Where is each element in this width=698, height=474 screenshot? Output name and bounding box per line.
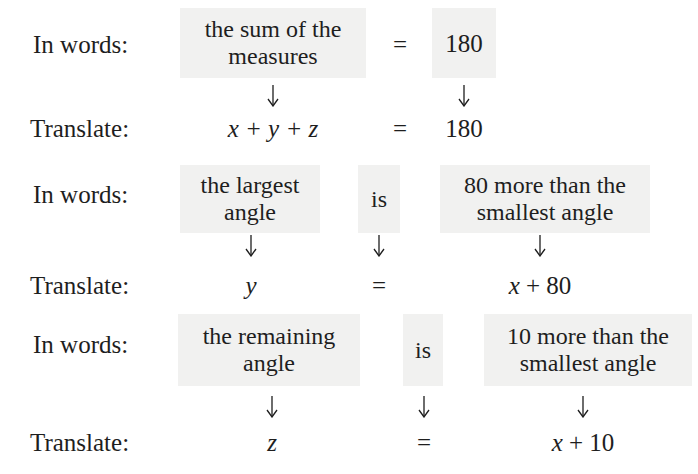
plus-80: + 80 bbox=[520, 272, 572, 299]
phrase-line: the remaining bbox=[203, 323, 336, 350]
phrase-80-more-than-smallest: 80 more than the smallest angle bbox=[440, 165, 650, 233]
in-words-label: In words: bbox=[33, 31, 128, 59]
translate-label: Translate: bbox=[30, 429, 129, 457]
down-arrow-icon bbox=[417, 396, 431, 418]
down-arrow-icon bbox=[372, 235, 386, 257]
variable-x: x bbox=[552, 429, 563, 456]
expression-x-plus-80: x + 80 bbox=[490, 272, 590, 300]
equals-sign: = bbox=[367, 272, 391, 300]
down-arrow-icon bbox=[533, 235, 547, 257]
phrase-largest-angle: the largest angle bbox=[180, 165, 320, 233]
down-arrow-icon bbox=[457, 85, 471, 107]
phrase-sum-of-measures: the sum of the measures bbox=[180, 8, 366, 78]
equals-sign: = bbox=[412, 429, 436, 457]
phrase-180: 180 bbox=[432, 8, 496, 78]
in-words-label: In words: bbox=[33, 181, 128, 209]
expression-x-plus-10: x + 10 bbox=[533, 429, 633, 457]
phrase-line: angle bbox=[203, 350, 336, 377]
expression-z: z bbox=[252, 429, 292, 457]
down-arrow-icon bbox=[266, 85, 280, 107]
variable-x: x bbox=[509, 272, 520, 299]
phrase-line: smallest angle bbox=[464, 199, 626, 226]
phrase-line: 10 more than the bbox=[507, 323, 669, 350]
phrase-line: 80 more than the bbox=[464, 172, 626, 199]
phrase-line: angle bbox=[201, 199, 300, 226]
equals-sign: = bbox=[388, 115, 412, 143]
phrase-line: smallest angle bbox=[507, 350, 669, 377]
phrase-remaining-angle: the remaining angle bbox=[178, 314, 360, 386]
expression-y: y bbox=[231, 272, 271, 300]
in-words-label: In words: bbox=[33, 331, 128, 359]
down-arrow-icon bbox=[265, 396, 279, 418]
phrase-10-more-than-smallest: 10 more than the smallest angle bbox=[484, 314, 692, 386]
translate-label: Translate: bbox=[30, 115, 129, 143]
equals-sign: = bbox=[388, 31, 412, 59]
down-arrow-icon bbox=[244, 235, 258, 257]
phrase-line: measures bbox=[205, 43, 342, 70]
phrase-line: the largest bbox=[201, 172, 300, 199]
verb-is: is bbox=[403, 314, 443, 386]
phrase-line: the sum of the bbox=[205, 16, 342, 43]
expression-180: 180 bbox=[432, 115, 496, 143]
verb-is: is bbox=[358, 165, 400, 233]
down-arrow-icon bbox=[576, 396, 590, 418]
plus-10: + 10 bbox=[563, 429, 615, 456]
translate-label: Translate: bbox=[30, 272, 129, 300]
expression-x-plus-y-plus-z: x + y + z bbox=[200, 115, 346, 143]
